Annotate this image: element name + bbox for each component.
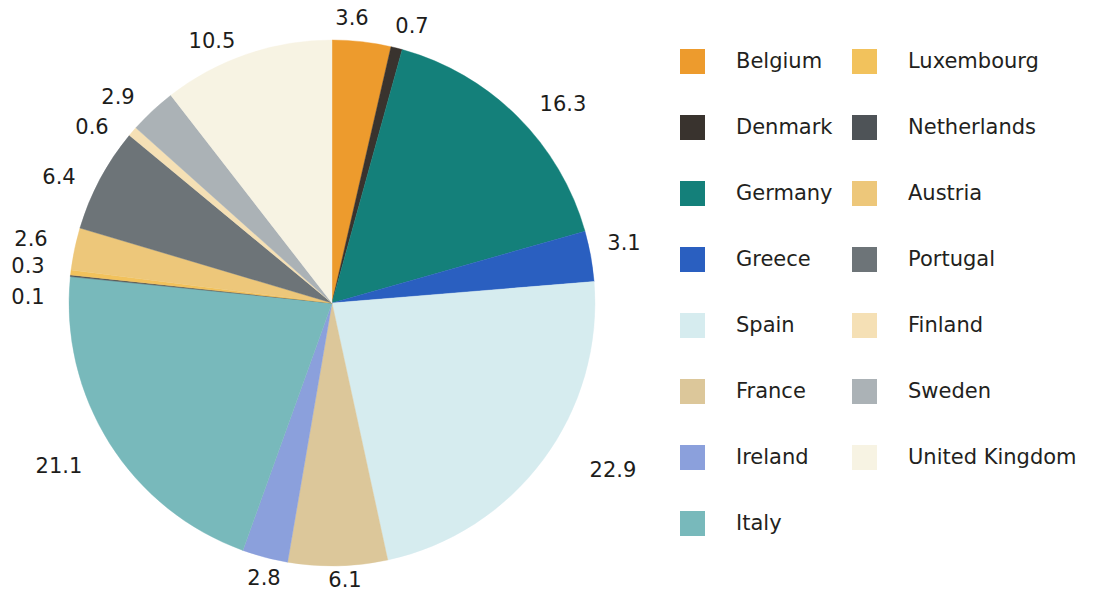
legend-color-swatch	[852, 247, 877, 272]
legend-item[interactable]: Germany	[680, 160, 833, 226]
legend-item[interactable]: Ireland	[680, 424, 833, 490]
legend-item-label: Ireland	[736, 445, 809, 469]
legend-item[interactable]: Netherlands	[852, 94, 1077, 160]
pie-slice-value-label: 2.6	[14, 227, 47, 251]
legend-color-swatch	[680, 511, 705, 536]
legend-color-swatch	[852, 313, 877, 338]
pie-chart-figure: 3.60.716.33.122.96.12.821.10.10.32.66.40…	[0, 0, 1096, 600]
legend-item[interactable]: Spain	[680, 292, 833, 358]
legend-color-swatch	[852, 181, 877, 206]
legend-item[interactable]: Greece	[680, 226, 833, 292]
legend-item-label: Austria	[908, 181, 982, 205]
legend-item-label: Sweden	[908, 379, 991, 403]
pie-slice-value-label: 2.8	[247, 566, 280, 590]
legend-item-label: Netherlands	[908, 115, 1036, 139]
legend-item[interactable]: France	[680, 358, 833, 424]
legend-item[interactable]: Italy	[680, 490, 833, 556]
legend-color-swatch	[680, 49, 705, 74]
legend-item-label: France	[736, 379, 806, 403]
pie-slice-value-label: 3.6	[335, 6, 368, 30]
legend-color-swatch	[680, 247, 705, 272]
pie-slice-value-label: 0.6	[75, 115, 108, 139]
legend-color-swatch	[852, 115, 877, 140]
legend-item[interactable]: United Kingdom	[852, 424, 1077, 490]
pie-slice-value-label: 2.9	[101, 85, 134, 109]
legend-item[interactable]: Sweden	[852, 358, 1077, 424]
legend-color-swatch	[680, 445, 705, 470]
legend-item-label: Belgium	[736, 49, 822, 73]
pie-slice-value-label: 21.1	[36, 454, 83, 478]
legend-item[interactable]: Belgium	[680, 28, 833, 94]
chart-legend: BelgiumDenmarkGermanyGreeceSpainFranceIr…	[676, 28, 1096, 528]
legend-item-label: Denmark	[736, 115, 833, 139]
pie-slice-value-label: 6.4	[42, 165, 75, 189]
legend-item[interactable]: Finland	[852, 292, 1077, 358]
legend-item[interactable]: Denmark	[680, 94, 833, 160]
legend-column-left: BelgiumDenmarkGermanyGreeceSpainFranceIr…	[680, 28, 833, 556]
pie-slice-value-label: 0.7	[395, 14, 428, 38]
pie-slice-value-label: 0.3	[11, 254, 44, 278]
legend-item-label: Italy	[736, 511, 782, 535]
pie-plot-area: 3.60.716.33.122.96.12.821.10.10.32.66.40…	[0, 0, 660, 600]
legend-item[interactable]: Austria	[852, 160, 1077, 226]
legend-column-right: LuxembourgNetherlandsAustriaPortugalFinl…	[852, 28, 1077, 490]
legend-item[interactable]: Portugal	[852, 226, 1077, 292]
pie-slice-value-label: 6.1	[328, 568, 361, 592]
pie-slice-value-label: 16.3	[540, 92, 587, 116]
legend-item-label: Portugal	[908, 247, 995, 271]
legend-item-label: Germany	[736, 181, 833, 205]
legend-item[interactable]: Luxembourg	[852, 28, 1077, 94]
pie-slice-value-label: 10.5	[189, 29, 236, 53]
legend-item-label: Spain	[736, 313, 795, 337]
legend-item-label: Luxembourg	[908, 49, 1039, 73]
legend-item-label: Greece	[736, 247, 811, 271]
legend-color-swatch	[852, 49, 877, 74]
legend-color-swatch	[680, 313, 705, 338]
legend-color-swatch	[852, 445, 877, 470]
legend-color-swatch	[680, 379, 705, 404]
legend-item-label: United Kingdom	[908, 445, 1077, 469]
legend-color-swatch	[680, 181, 705, 206]
pie-slice-value-label: 3.1	[607, 231, 640, 255]
legend-item-label: Finland	[908, 313, 983, 337]
pie-slice-value-label: 22.9	[590, 458, 637, 482]
legend-color-swatch	[680, 115, 705, 140]
pie-slice-value-label: 0.1	[11, 285, 44, 309]
legend-color-swatch	[852, 379, 877, 404]
pie-svg	[0, 0, 660, 600]
